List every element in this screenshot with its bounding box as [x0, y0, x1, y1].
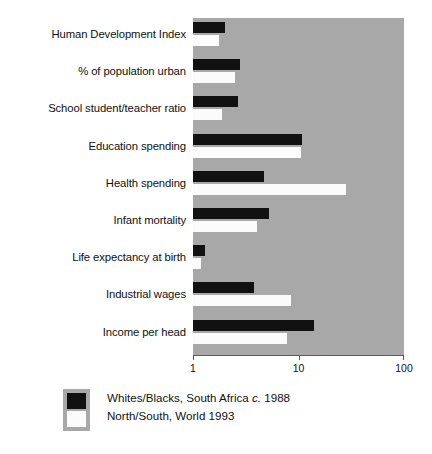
category-label-7: Industrial wages	[0, 288, 186, 300]
category-label-5: Infant mortality	[0, 214, 186, 226]
bar-black-8	[193, 320, 314, 331]
bar-black-0	[193, 22, 225, 33]
bar-black-1	[193, 59, 240, 70]
bar-black-4	[193, 171, 264, 182]
category-label-2: School student/teacher ratio	[0, 102, 186, 114]
x-axis-tick-100	[403, 355, 404, 360]
chart-legend: Whites/Blacks, South Africa c. 1988 Nort…	[63, 388, 383, 436]
category-axis-labels: Human Development Index% of population u…	[0, 18, 186, 355]
bar-white-8	[193, 333, 287, 344]
bar-white-2	[193, 109, 222, 120]
legend-label-series-0-italic: c.	[252, 391, 261, 404]
plot-area	[193, 18, 404, 355]
bar-white-1	[193, 72, 235, 83]
chart-figure: Human Development Index% of population u…	[0, 0, 432, 454]
bar-black-6	[193, 245, 205, 256]
legend-swatch-box	[63, 389, 90, 431]
bar-white-0	[193, 35, 219, 46]
legend-label-series-1: North/South, World 1993	[107, 409, 234, 423]
legend-swatch-black	[67, 393, 86, 409]
x-axis-tick-label-1: 1	[190, 362, 196, 374]
legend-label-series-0-text: Whites/Blacks, South Africa	[107, 391, 252, 404]
bar-black-2	[193, 96, 238, 107]
bar-black-3	[193, 134, 302, 145]
x-axis-tick-label-100: 100	[395, 362, 413, 374]
category-label-3: Education spending	[0, 140, 186, 152]
x-axis-tick-10	[299, 355, 300, 360]
x-axis-tick-1	[193, 355, 194, 360]
category-label-1: % of population urban	[0, 65, 186, 77]
bar-white-6	[193, 258, 201, 269]
category-label-4: Health spending	[0, 177, 186, 189]
legend-label-series-0-suffix: 1988	[261, 391, 290, 404]
bar-black-7	[193, 282, 254, 293]
category-label-6: Life expectancy at birth	[0, 251, 186, 263]
bar-white-5	[193, 221, 257, 232]
bar-black-5	[193, 208, 269, 219]
category-label-8: Income per head	[0, 326, 186, 338]
legend-label-series-0: Whites/Blacks, South Africa c. 1988	[107, 391, 290, 405]
legend-swatch-white	[67, 411, 86, 427]
bar-white-4	[193, 184, 346, 195]
x-axis-tick-label-10: 10	[293, 362, 305, 374]
bar-white-7	[193, 295, 291, 306]
bar-white-3	[193, 147, 301, 158]
category-label-0: Human Development Index	[0, 28, 186, 40]
legend-label-series-1-text: North/South, World 1993	[107, 409, 234, 422]
